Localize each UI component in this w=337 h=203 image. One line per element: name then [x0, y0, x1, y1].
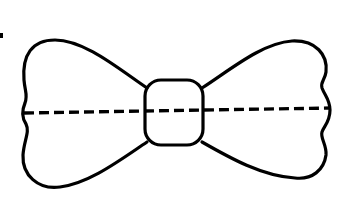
bow-tie-drawing: [0, 0, 337, 203]
fold-dashed-line: [24, 108, 330, 113]
corner-mark: [0, 33, 3, 38]
